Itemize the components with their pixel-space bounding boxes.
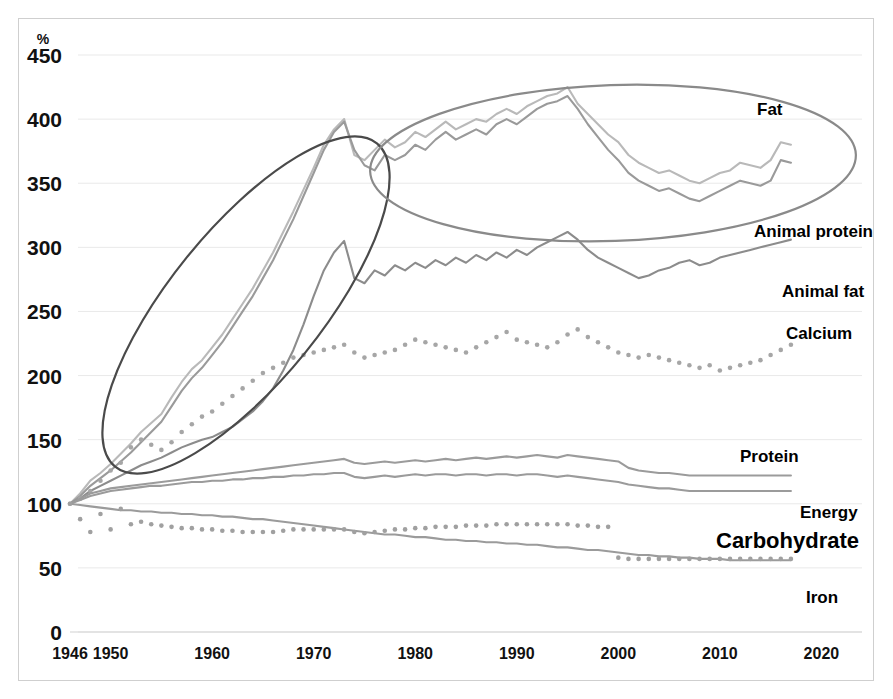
series-point [190,422,195,427]
series-point [718,557,723,562]
series-point [555,522,560,527]
series-point [504,522,509,527]
series-line-energy [70,473,791,504]
series-point [68,501,73,506]
series-point [342,527,347,532]
series-point [190,526,195,531]
series-point [322,527,327,532]
series-point [210,527,215,532]
series-point [454,348,459,353]
series-point [169,440,174,445]
series-point [250,378,255,383]
series-point [707,557,712,562]
series-point [626,353,631,358]
series-point [596,525,601,530]
series-point [525,522,530,527]
series-point [707,363,712,368]
y-axis-unit-label: % [37,31,50,47]
series-point [758,557,763,562]
series-point [667,557,672,562]
series-point [586,523,591,528]
data-series-group [68,87,794,561]
series-point [311,527,316,532]
series-point [697,557,702,562]
x-tick-label-1970: 1970 [296,645,332,662]
series-point [118,460,123,465]
series-point [677,557,682,562]
y-tick-label-0: 0 [50,621,62,644]
series-point [200,414,205,419]
series-point [768,353,773,358]
series-point [616,350,621,355]
series-point [261,371,266,376]
y-tick-label-300: 300 [27,236,62,259]
series-point [789,557,794,562]
series-point [382,350,387,355]
series-point [200,527,205,532]
y-tick-label-450: 450 [27,44,62,67]
series-point [98,512,103,517]
series-label-energy: Energy [800,503,858,523]
series-point [646,353,651,358]
y-tick-label-200: 200 [27,365,62,388]
series-point [768,557,773,562]
series-point [687,557,692,562]
series-point [575,327,580,332]
series-point [261,530,266,535]
series-point [403,527,408,532]
series-point [514,337,519,342]
series-point [575,523,580,528]
series-point [342,342,347,347]
series-point [667,358,672,363]
series-point [352,350,357,355]
series-point [413,337,418,342]
series-points-iron [68,501,794,561]
series-point [403,342,408,347]
series-point [332,527,337,532]
series-point [88,530,93,535]
series-point [464,523,469,528]
series-point [159,523,164,528]
series-point [545,522,550,527]
series-point [443,525,448,530]
x-tick-label-1960: 1960 [194,645,230,662]
series-point [657,355,662,360]
series-point [149,443,154,448]
series-point [454,525,459,530]
series-point [616,555,621,560]
series-point [98,478,103,483]
x-tick-label-1946: 1946 [52,645,88,662]
series-label-animal-protein: Animal protein [754,222,873,242]
series-point [220,528,225,533]
series-point [778,557,783,562]
series-point [677,360,682,365]
series-point [393,348,398,353]
series-point [240,386,245,391]
series-point [464,350,469,355]
series-point [433,342,438,347]
series-point [758,358,763,363]
series-point [281,360,286,365]
series-point [139,519,144,524]
series-point [230,394,235,399]
y-tick-label-400: 400 [27,108,62,131]
series-point [179,526,184,531]
series-point [636,355,641,360]
y-axis-tick-labels: 050100150200250300350400450% [27,31,62,644]
series-point [382,528,387,533]
series-point [372,353,377,358]
series-point [484,340,489,345]
series-point [748,557,753,562]
series-point [179,430,184,435]
series-point [129,522,134,527]
series-point [149,522,154,527]
series-point [565,522,570,527]
series-point [494,335,499,340]
series-point [271,530,276,535]
series-point [129,445,134,450]
series-point [423,526,428,531]
series-point [372,530,377,535]
series-point [687,363,692,368]
series-point [636,557,641,562]
series-point [555,340,560,345]
